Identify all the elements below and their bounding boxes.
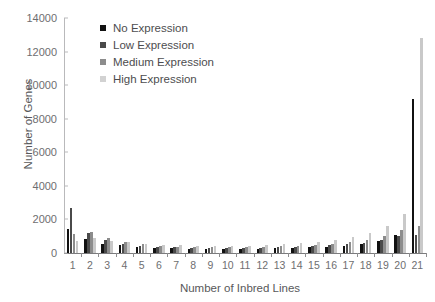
bar-chart-figure: Number of Genes Number of Inbred Lines 0… [0, 0, 435, 302]
bar [352, 237, 355, 253]
x-tick-label: 8 [190, 259, 196, 271]
x-tick-mark [219, 253, 220, 257]
x-tick-mark [409, 253, 410, 257]
bar-group [67, 18, 78, 253]
chart-legend: No ExpressionLow ExpressionMedium Expres… [100, 19, 214, 87]
y-axis-line [64, 18, 65, 253]
legend-swatch-icon [100, 25, 106, 31]
x-tick-label: 2 [87, 259, 93, 271]
x-tick-label: 6 [156, 259, 162, 271]
bar [283, 244, 286, 253]
x-tick-mark [116, 253, 117, 257]
legend-item-label: Low Expression [113, 39, 194, 51]
bar-group [377, 18, 388, 253]
bar-group [257, 18, 268, 253]
bar-group [308, 18, 319, 253]
y-tick-label: 6000 [33, 146, 64, 158]
x-tick-mark [150, 253, 151, 257]
x-tick-mark [323, 253, 324, 257]
x-tick-label: 12 [256, 259, 268, 271]
x-tick-label: 14 [291, 259, 303, 271]
x-tick-label: 17 [343, 259, 355, 271]
bar [162, 245, 165, 253]
x-tick-mark [254, 253, 255, 257]
x-tick-mark [202, 253, 203, 257]
legend-swatch-icon [100, 42, 106, 48]
x-tick-label: 11 [240, 259, 251, 271]
x-tick-label: 10 [222, 259, 234, 271]
x-tick-label: 4 [121, 259, 127, 271]
x-tick-mark [236, 253, 237, 257]
x-tick-label: 5 [139, 259, 145, 271]
bar [231, 246, 234, 253]
bar-group [394, 18, 405, 253]
bar-group [325, 18, 336, 253]
y-tick-label: 14000 [26, 12, 64, 24]
x-tick-mark [288, 253, 289, 257]
bar [196, 246, 199, 253]
legend-swatch-icon [100, 59, 106, 65]
x-tick-label: 16 [325, 259, 337, 271]
y-tick-label: 8000 [33, 113, 64, 125]
x-axis-title: Number of Inbred Lines [60, 282, 420, 294]
bar [127, 242, 130, 253]
bar [334, 240, 337, 253]
y-tick-label: 10000 [26, 79, 64, 91]
x-tick-mark [305, 253, 306, 257]
legend-swatch-icon [100, 76, 106, 82]
y-tick-label: 0 [51, 247, 64, 259]
bar [179, 245, 182, 253]
y-tick-label: 4000 [33, 180, 64, 192]
bar [386, 226, 389, 253]
bar [317, 242, 320, 253]
bar [110, 241, 113, 253]
y-tick-label: 12000 [26, 46, 64, 58]
x-tick-label: 13 [274, 259, 286, 271]
x-tick-mark [133, 253, 134, 257]
bar-group [291, 18, 302, 253]
bar [145, 244, 148, 253]
x-tick-label: 15 [308, 259, 320, 271]
bar-group [84, 18, 95, 253]
bar [265, 245, 268, 253]
legend-item: No Expression [100, 19, 214, 36]
bar-group [239, 18, 250, 253]
x-tick-mark [185, 253, 186, 257]
x-tick-label: 9 [208, 259, 214, 271]
bar-group [222, 18, 233, 253]
x-tick-mark [392, 253, 393, 257]
legend-item-label: No Expression [113, 22, 188, 34]
bar-group [343, 18, 354, 253]
legend-item: Low Expression [100, 36, 214, 53]
bar [420, 38, 423, 253]
bar [300, 243, 303, 253]
x-tick-mark [340, 253, 341, 257]
bar [76, 241, 79, 253]
x-tick-mark [167, 253, 168, 257]
bar [93, 238, 96, 253]
x-tick-mark [98, 253, 99, 257]
legend-item-label: Medium Expression [113, 56, 214, 68]
x-tick-label: 19 [377, 259, 389, 271]
x-tick-label: 20 [394, 259, 406, 271]
legend-item-label: High Expression [113, 73, 197, 85]
bar [248, 246, 251, 253]
x-tick-mark [81, 253, 82, 257]
bar-group [360, 18, 371, 253]
x-tick-label: 3 [104, 259, 110, 271]
x-tick-mark [426, 253, 427, 257]
legend-item: Medium Expression [100, 53, 214, 70]
x-tick-mark [374, 253, 375, 257]
x-tick-label: 1 [70, 259, 76, 271]
x-axis-line [64, 253, 426, 254]
legend-item: High Expression [100, 70, 214, 87]
x-tick-mark [357, 253, 358, 257]
bar-group [412, 18, 423, 253]
x-tick-mark [271, 253, 272, 257]
bar [369, 233, 372, 253]
bar [403, 214, 406, 253]
y-tick-label: 2000 [33, 213, 64, 225]
x-tick-label: 7 [173, 259, 179, 271]
bar [412, 99, 415, 253]
x-tick-label: 21 [412, 259, 424, 271]
